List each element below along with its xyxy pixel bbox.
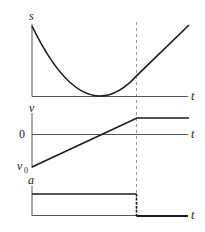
t-axis-label-position: t [191,89,195,103]
velocity-curve [32,118,189,167]
a-axis-label: a [28,173,34,187]
t-axis-label-velocity: t [191,127,195,141]
t-axis-label-acceleration: t [191,208,195,222]
zero-label: 0 [19,127,25,141]
v-axis-label: v [29,101,35,115]
position-curve [32,25,189,96]
acceleration-graph: a t [28,173,195,222]
velocity-graph: v 0 t v 0 [17,101,195,175]
v0-label: v [17,159,23,173]
s-axis-label: s [29,9,34,23]
position-graph: s t [29,9,195,103]
